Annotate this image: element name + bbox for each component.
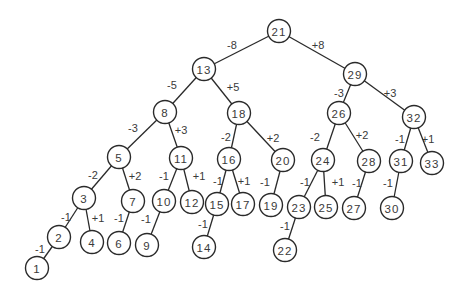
edge-weight-label: -1	[300, 176, 310, 188]
edge-weight-label: -2	[88, 169, 98, 181]
node-value-label: 26	[332, 108, 347, 120]
edge-weight-label: +5	[227, 81, 240, 93]
edge-weight-label: +1	[332, 176, 345, 188]
tree-node: 25	[315, 196, 338, 219]
node-value-label: 19	[264, 200, 279, 212]
tree-edge	[204, 31, 279, 69]
edge-weight-label: +3	[175, 124, 188, 136]
edge-weight-label: +2	[267, 132, 280, 144]
node-value-label: 1	[33, 263, 40, 275]
node-value-label: 8	[161, 107, 168, 119]
node-value-label: 17	[236, 199, 251, 211]
node-value-label: 27	[347, 203, 362, 215]
node-value-label: 16	[222, 154, 237, 166]
node-value-label: 31	[394, 156, 409, 168]
node-value-label: 22	[278, 245, 293, 257]
tree-node: 4	[81, 231, 104, 254]
edge-weight-label: -1	[352, 177, 362, 189]
edge-weight-label: +1	[92, 212, 105, 224]
tree-node: 14	[193, 236, 216, 259]
tree-node: 8	[154, 101, 177, 124]
edge-weight-label: +1	[422, 133, 435, 145]
node-value-label: 29	[348, 69, 363, 81]
tree-node: 20	[272, 149, 295, 172]
node-value-label: 3	[80, 193, 87, 205]
node-value-label: 9	[143, 240, 150, 252]
edge-weight-label: -1	[280, 220, 290, 232]
node-value-label: 13	[197, 64, 212, 76]
tree-node: 6	[108, 232, 131, 255]
node-value-label: 14	[197, 242, 212, 254]
tree-node: 17	[232, 193, 255, 216]
edge-weight-label: -1	[395, 133, 405, 145]
edge-weight-label: -1	[114, 212, 124, 224]
node-value-label: 23	[292, 202, 307, 214]
tree-edge-labels: -8+8-5+5-3+3-3+3-2+2-2+2-1+1-2+2-1+1-1+1…	[35, 39, 434, 255]
tree-node: 11	[170, 147, 193, 170]
tree-edge	[279, 31, 355, 74]
edge-weight-label: -3	[334, 87, 344, 99]
edge-weight-label: +3	[384, 87, 397, 99]
edge-weight-label: -1	[260, 176, 270, 188]
tree-node: 18	[228, 102, 251, 125]
tree-node: 23	[288, 196, 311, 219]
tree-node: 19	[260, 194, 283, 217]
tree-node: 32	[403, 106, 426, 129]
node-value-label: 32	[407, 112, 422, 124]
tree-node: 21	[268, 20, 291, 43]
tree-node: 26	[328, 102, 351, 125]
edge-weight-label: -1	[213, 175, 223, 187]
edge-weight-label: -1	[141, 213, 151, 225]
edge-weight-label: -5	[167, 79, 177, 91]
node-value-label: 10	[157, 196, 172, 208]
edge-weight-label: -1	[198, 218, 208, 230]
tree-node: 15	[206, 193, 229, 216]
node-value-label: 12	[185, 197, 200, 209]
node-value-label: 25	[319, 202, 334, 214]
tree-node: 12	[181, 191, 204, 214]
node-value-label: 7	[129, 196, 136, 208]
tree-node: 24	[312, 149, 335, 172]
tree-nodes: 2113298182632511162024283133371012151719…	[26, 20, 444, 280]
binary-tree-diagram: -8+8-5+5-3+3-3+3-2+2-2+2-1+1-2+2-1+1-1+1…	[0, 0, 469, 298]
edge-weight-label: +1	[193, 170, 206, 182]
tree-node: 27	[343, 197, 366, 220]
tree-node: 29	[344, 63, 367, 86]
edge-weight-label: +2	[356, 129, 369, 141]
edge-weight-label: -3	[128, 122, 138, 134]
node-value-label: 15	[210, 199, 225, 211]
node-value-label: 11	[174, 153, 188, 165]
node-value-label: 4	[88, 237, 95, 249]
edge-weight-label: +2	[129, 170, 142, 182]
edge-weight-label: +8	[312, 39, 325, 51]
tree-node: 7	[122, 190, 145, 213]
tree-node: 13	[193, 58, 216, 81]
node-value-label: 24	[316, 155, 331, 167]
edge-weight-label: -2	[310, 131, 320, 143]
tree-node: 3	[73, 187, 96, 210]
tree-node: 1	[26, 257, 49, 280]
node-value-label: 28	[362, 156, 377, 168]
edge-weight-label: +1	[238, 175, 251, 187]
tree-node: 22	[274, 239, 297, 262]
tree-node: 2	[48, 226, 71, 249]
tree-node: 9	[136, 234, 159, 257]
edge-weight-label: -2	[221, 131, 231, 143]
tree-node: 30	[381, 197, 404, 220]
node-value-label: 5	[115, 152, 122, 164]
edge-weight-label: -1	[383, 177, 393, 189]
node-value-label: 33	[425, 158, 440, 170]
node-value-label: 30	[385, 203, 400, 215]
tree-node: 33	[421, 152, 444, 175]
edge-weight-label: -1	[35, 243, 45, 255]
edge-weight-label: -1	[61, 211, 71, 223]
node-value-label: 18	[232, 108, 247, 120]
tree-node: 16	[218, 148, 241, 171]
tree-node: 28	[358, 150, 381, 173]
tree-node: 31	[390, 150, 413, 173]
node-value-label: 2	[55, 232, 62, 244]
node-value-label: 21	[272, 26, 287, 38]
node-value-label: 20	[276, 155, 291, 167]
node-value-label: 6	[115, 238, 122, 250]
tree-node: 5	[108, 146, 131, 169]
